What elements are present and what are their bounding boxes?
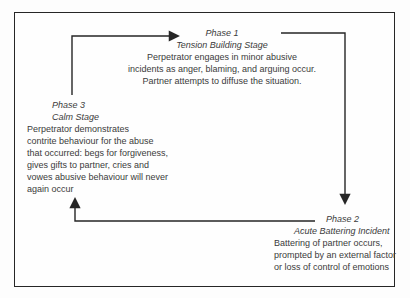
phase-3-stage-name: Calm Stage	[27, 111, 192, 123]
phase-2-text-line: prompted by an external factor	[274, 249, 392, 261]
phase-3-block: Phase 3 Calm Stage Perpetrator demonstra…	[27, 99, 192, 195]
phase-3-text-line: vowes abusive behaviour will never	[27, 171, 192, 183]
phase-3-text-line: again occur	[27, 183, 192, 195]
phase-1-label: Phase 1	[117, 27, 327, 39]
phase-1-text-line: Partner attempts to diffuse the situatio…	[117, 75, 327, 87]
phase-3-text-line: gives gifts to partner, cries and	[27, 159, 192, 171]
phase-3-label: Phase 3	[27, 99, 192, 111]
phase-1-text-line: incidents as anger, blaming, and arguing…	[117, 63, 327, 75]
phase-2-stage-name: Acute Battering Incident	[274, 225, 392, 237]
phase-3-text-line: Perpetrator demonstrates	[27, 123, 192, 135]
phase-3-text-line: that occurred: begs for forgiveness,	[27, 147, 192, 159]
phase-1-stage-name: Tension Building Stage	[117, 39, 327, 51]
phase-3-text-line: contrite behaviour for the abuse	[27, 135, 192, 147]
phase-2-block: Phase 2 Acute Battering Incident Batteri…	[274, 213, 392, 273]
phase-1-text-line: Perpetrator engages in minor abusive	[117, 51, 327, 63]
phase-1-block: Phase 1 Tension Building Stage Perpetrat…	[117, 27, 327, 87]
cycle-of-abuse-diagram: Phase 1 Tension Building Stage Perpetrat…	[0, 0, 410, 298]
phase-2-text-line: or loss of control of emotions	[274, 261, 392, 273]
phase-2-label: Phase 2	[274, 213, 392, 225]
phase-2-text-line: Battering of partner occurs,	[274, 237, 392, 249]
